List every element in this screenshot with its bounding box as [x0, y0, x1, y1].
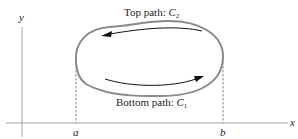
- bottom-path-curve-name: C: [177, 96, 184, 108]
- tick-label-b: b: [220, 127, 226, 138]
- bottom-path-text: Bottom path:: [116, 96, 177, 108]
- bottom-arrow-head-icon: [194, 76, 204, 82]
- line-integral-diagram: y x a b Top path: C2 Bottom path: C1: [0, 0, 298, 139]
- y-axis-label: y: [19, 12, 24, 23]
- top-path-subscript: 2: [176, 12, 180, 20]
- diagram-canvas: [0, 0, 298, 139]
- bottom-path-label: Bottom path: C1: [116, 97, 187, 110]
- top-path-label: Top path: C2: [124, 7, 179, 20]
- top-arrow-line: [110, 28, 202, 34]
- top-path-text: Top path:: [124, 6, 168, 18]
- top-path-curve-name: C: [168, 6, 175, 18]
- tick-label-a: a: [73, 127, 79, 138]
- closed-curve: [76, 21, 223, 96]
- x-axis-label: x: [290, 117, 295, 128]
- top-arrow-head-icon: [101, 31, 112, 37]
- bottom-arrow-line: [105, 79, 196, 85]
- bottom-path-subscript: 1: [184, 102, 188, 110]
